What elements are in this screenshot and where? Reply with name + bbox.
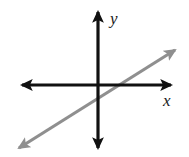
coordinate-plane-svg: y x <box>0 0 189 157</box>
coordinate-plane-figure: y x <box>0 0 189 157</box>
x-axis-label: x <box>162 91 171 110</box>
y-axis-label: y <box>108 9 118 28</box>
figure-background <box>0 0 189 157</box>
